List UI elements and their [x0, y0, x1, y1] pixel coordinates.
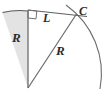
label-chord-l: L [43, 12, 50, 24]
radius-slant-line [28, 14, 77, 88]
label-radius-vertical: R [12, 31, 21, 44]
label-point-c: C [79, 5, 87, 17]
geometry-figure: R R L C [0, 0, 111, 92]
label-radius-slant: R [56, 44, 65, 57]
shaded-sector-region [3, 11, 29, 88]
right-angle-marker-icon [28, 10, 37, 19]
